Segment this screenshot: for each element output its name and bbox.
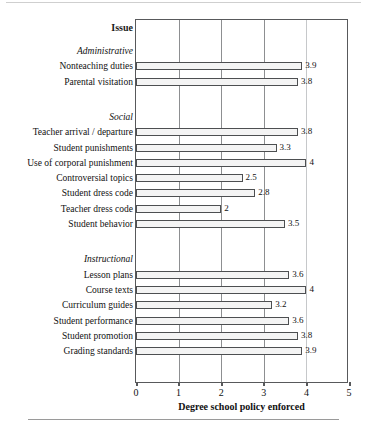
bar-value-label: 3.8 bbox=[301, 330, 312, 341]
bar-value-label: 3.2 bbox=[275, 299, 286, 310]
bar-value-label: 4 bbox=[309, 284, 314, 295]
x-tick-5 bbox=[349, 382, 351, 386]
bar-category-label: Parental visitation bbox=[0, 77, 133, 88]
bar-value-label: 2.5 bbox=[246, 172, 257, 183]
bar-value-label: 2.8 bbox=[258, 187, 269, 198]
bar-row: Nonteaching duties3.9 bbox=[136, 61, 349, 72]
bar-row: Use of corporal punishment4 bbox=[136, 158, 349, 169]
bar bbox=[136, 205, 221, 213]
bar bbox=[136, 78, 298, 86]
bar bbox=[136, 301, 272, 309]
bar bbox=[136, 174, 243, 182]
bar-chart-figure: Issue AdministrativeNonteaching duties3.… bbox=[0, 0, 367, 434]
x-tick-label-5: 5 bbox=[334, 387, 364, 399]
x-tick-label-2: 2 bbox=[206, 387, 236, 399]
bar-row: Student behavior3.5 bbox=[136, 219, 349, 230]
bar bbox=[136, 317, 289, 325]
x-tick-label-3: 3 bbox=[249, 387, 279, 399]
gridline-2 bbox=[221, 20, 222, 382]
bar-category-label: Grading standards bbox=[0, 346, 133, 357]
bar-row: Lesson plans3.6 bbox=[136, 270, 349, 281]
bar bbox=[136, 189, 255, 197]
bar-category-label: Student punishments bbox=[0, 143, 133, 154]
bar-value-label: 3.5 bbox=[288, 218, 299, 229]
bar-row: Student punishments3.3 bbox=[136, 143, 349, 154]
x-tick-3 bbox=[263, 382, 265, 386]
x-tick-0 bbox=[136, 382, 138, 386]
bar-value-label: 3.8 bbox=[301, 126, 312, 137]
bar bbox=[136, 144, 277, 152]
bar-row: Student promotion3.8 bbox=[136, 331, 349, 342]
bar bbox=[136, 159, 306, 167]
bar-value-label: 4 bbox=[309, 157, 314, 168]
bar-category-label: Course texts bbox=[0, 285, 133, 296]
bar-category-label: Controversial topics bbox=[0, 173, 133, 184]
bar-category-label: Teacher arrival / departure bbox=[0, 127, 133, 138]
bar-value-label: 2 bbox=[224, 203, 229, 214]
bar-row: Student dress code2.8 bbox=[136, 188, 349, 199]
bar-row: Controversial topics2.5 bbox=[136, 173, 349, 184]
bar-category-label: Use of corporal punishment bbox=[0, 158, 133, 169]
bar bbox=[136, 347, 302, 355]
bar-category-label: Student dress code bbox=[0, 188, 133, 199]
bar-row: Grading standards3.9 bbox=[136, 346, 349, 357]
x-tick-4 bbox=[306, 382, 308, 386]
bar-value-label: 3.9 bbox=[305, 60, 316, 71]
bar bbox=[136, 332, 298, 340]
x-tick-2 bbox=[221, 382, 223, 386]
bar-row: Parental visitation3.8 bbox=[136, 77, 349, 88]
bar-row: Teacher arrival / departure3.8 bbox=[136, 127, 349, 138]
bar bbox=[136, 286, 306, 294]
group-heading-social: Social bbox=[0, 112, 133, 123]
bar-row: Course texts4 bbox=[136, 285, 349, 296]
bar-value-label: 3.6 bbox=[292, 269, 303, 280]
bar-value-label: 3.8 bbox=[301, 76, 312, 87]
bar-category-label: Lesson plans bbox=[0, 270, 133, 281]
issue-column-heading: Issue bbox=[0, 22, 133, 33]
gridline-1 bbox=[179, 20, 180, 382]
bar-category-label: Teacher dress code bbox=[0, 204, 133, 215]
x-tick-label-4: 4 bbox=[291, 387, 321, 399]
bar-row: Curriculum guides3.2 bbox=[136, 300, 349, 311]
x-axis-title: Degree school policy enforced bbox=[135, 401, 348, 413]
bar-row: Teacher dress code2 bbox=[136, 204, 349, 215]
bar-category-label: Nonteaching duties bbox=[0, 61, 133, 72]
gridline-4 bbox=[306, 20, 307, 382]
bar bbox=[136, 62, 302, 70]
x-tick-label-0: 0 bbox=[121, 387, 151, 399]
bar bbox=[136, 128, 298, 136]
bar-value-label: 3.6 bbox=[292, 315, 303, 326]
bar-value-label: 3.3 bbox=[280, 142, 291, 153]
bar bbox=[136, 271, 289, 279]
x-tick-label-1: 1 bbox=[164, 387, 194, 399]
bar bbox=[136, 220, 285, 228]
bar-category-label: Curriculum guides bbox=[0, 300, 133, 311]
bar-value-label: 3.9 bbox=[305, 345, 316, 356]
bar-category-label: Student behavior bbox=[0, 219, 133, 230]
gridline-3 bbox=[264, 20, 265, 382]
bar-category-label: Student promotion bbox=[0, 331, 133, 342]
x-tick-1 bbox=[178, 382, 180, 386]
group-heading-instructional: Instructional bbox=[0, 254, 133, 265]
page-rule-bottom bbox=[28, 419, 339, 420]
plot-area: Issue AdministrativeNonteaching duties3.… bbox=[135, 19, 348, 383]
group-heading-administrative: Administrative bbox=[0, 46, 133, 57]
bar-row: Student performance3.6 bbox=[136, 316, 349, 327]
bar-category-label: Student performance bbox=[0, 316, 133, 327]
